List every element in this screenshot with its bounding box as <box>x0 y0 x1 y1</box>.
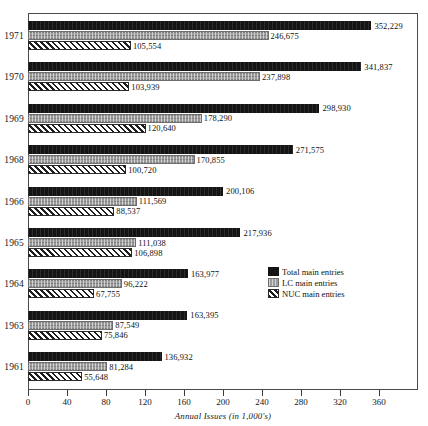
legend-swatch-nuc-icon <box>268 289 279 298</box>
bar-total-1969[interactable]: 298,930 <box>28 104 319 113</box>
bar-group-1969: 1969298,930178,290120,640 <box>28 104 418 135</box>
x-axis-title: Annual Issues (in 1,000's) <box>28 411 418 421</box>
bar-value-nuc-1970: 103,939 <box>131 82 159 91</box>
bar-value-nuc-1971: 105,554 <box>133 41 161 50</box>
bar-total-1961[interactable]: 136,932 <box>28 352 162 361</box>
x-tick-320 <box>340 390 341 396</box>
y-axis-label-1966: 1966 <box>4 197 24 207</box>
bar-value-lc-1963: 87,549 <box>115 321 139 330</box>
bar-nuc-1969[interactable]: 120,640 <box>28 124 146 133</box>
x-tick-0 <box>28 390 29 396</box>
y-axis-label-1961: 1961 <box>4 362 24 372</box>
x-tick-200 <box>223 390 224 396</box>
bar-lc-1961[interactable]: 81,284 <box>28 362 107 371</box>
y-axis-label-1971: 1971 <box>4 31 24 41</box>
bar-nuc-1961[interactable]: 55,648 <box>28 372 82 381</box>
legend-swatch-lc-icon <box>268 278 279 287</box>
bar-value-lc-1971: 246,675 <box>271 31 299 40</box>
x-tick-label-0: 0 <box>26 397 31 407</box>
bar-value-lc-1964: 96,222 <box>124 279 148 288</box>
bar-total-1970[interactable]: 341,837 <box>28 62 361 71</box>
bar-group-1970: 1970341,837237,898103,939 <box>28 62 418 93</box>
bar-group-1966: 1966200,106111,56988,537 <box>28 187 418 218</box>
bar-value-nuc-1966: 88,537 <box>116 207 140 216</box>
x-tick-label-360: 360 <box>372 397 386 407</box>
bar-value-lc-1961: 81,284 <box>109 362 133 371</box>
bar-value-nuc-1965: 106,898 <box>134 248 162 257</box>
x-tick-label-160: 160 <box>177 397 191 407</box>
x-tick-360 <box>379 390 380 396</box>
bar-value-total-1966: 200,106 <box>226 187 254 196</box>
x-tick-80 <box>106 390 107 396</box>
bar-total-1966[interactable]: 200,106 <box>28 187 223 196</box>
x-tick-160 <box>184 390 185 396</box>
bar-lc-1969[interactable]: 178,290 <box>28 114 202 123</box>
x-tick-40 <box>67 390 68 396</box>
bar-value-total-1961: 136,932 <box>165 352 193 361</box>
bars-layer: 1971352,229246,675105,5541970341,837237,… <box>28 13 418 390</box>
bar-nuc-1965[interactable]: 106,898 <box>28 248 132 257</box>
x-tick-label-200: 200 <box>216 397 230 407</box>
bar-total-1963[interactable]: 163,395 <box>28 311 187 320</box>
bar-chart: 1971352,229246,675105,5541970341,837237,… <box>0 0 428 426</box>
x-tick-label-40: 40 <box>63 397 72 407</box>
bar-nuc-1964[interactable]: 67,755 <box>28 289 94 298</box>
bar-nuc-1970[interactable]: 103,939 <box>28 82 129 91</box>
bar-value-nuc-1968: 100,720 <box>128 165 156 174</box>
bar-group-1965: 1965217,936111,038106,898 <box>28 228 418 259</box>
bar-lc-1968[interactable]: 170,855 <box>28 155 195 164</box>
bar-value-total-1968: 271,575 <box>296 145 324 154</box>
bar-value-lc-1965: 111,038 <box>138 238 166 247</box>
bar-value-total-1963: 163,395 <box>190 311 218 320</box>
x-tick-label-80: 80 <box>102 397 111 407</box>
x-axis: 04080120160200240280320360 Annual Issues… <box>28 390 418 426</box>
legend-label-nuc: NUC main entries <box>282 289 345 299</box>
y-axis-label-1968: 1968 <box>4 155 24 165</box>
bar-total-1965[interactable]: 217,936 <box>28 228 240 237</box>
bar-lc-1964[interactable]: 96,222 <box>28 279 122 288</box>
legend-item-nuc[interactable]: NUC main entries <box>268 288 388 299</box>
bar-total-1971[interactable]: 352,229 <box>28 21 371 30</box>
bar-value-total-1965: 217,936 <box>243 228 271 237</box>
bar-value-nuc-1963: 75,846 <box>104 331 128 340</box>
legend-swatch-total-icon <box>268 267 279 276</box>
y-axis-label-1970: 1970 <box>4 72 24 82</box>
bar-value-lc-1970: 237,898 <box>262 72 290 81</box>
bar-value-total-1964: 163,977 <box>191 269 219 278</box>
legend-item-lc[interactable]: LC main entries <box>268 277 388 288</box>
x-tick-label-120: 120 <box>138 397 152 407</box>
y-axis-label-1965: 1965 <box>4 238 24 248</box>
bar-nuc-1968[interactable]: 100,720 <box>28 165 126 174</box>
bar-value-lc-1966: 111,569 <box>139 197 167 206</box>
y-axis-label-1969: 1969 <box>4 114 24 124</box>
bar-value-lc-1968: 170,855 <box>197 155 225 164</box>
legend-item-total[interactable]: Total main entries <box>268 266 388 277</box>
chart-legend: Total main entriesLC main entriesNUC mai… <box>268 266 388 299</box>
bar-lc-1965[interactable]: 111,038 <box>28 238 136 247</box>
bar-lc-1966[interactable]: 111,569 <box>28 197 137 206</box>
bar-value-nuc-1969: 120,640 <box>148 124 176 133</box>
bar-nuc-1971[interactable]: 105,554 <box>28 41 131 50</box>
bar-total-1968[interactable]: 271,575 <box>28 145 293 154</box>
bar-nuc-1963[interactable]: 75,846 <box>28 331 102 340</box>
bar-lc-1971[interactable]: 246,675 <box>28 31 269 40</box>
bar-value-nuc-1964: 67,755 <box>96 289 120 298</box>
bar-lc-1963[interactable]: 87,549 <box>28 321 113 330</box>
legend-label-lc: LC main entries <box>282 278 337 288</box>
y-axis-label-1964: 1964 <box>4 279 24 289</box>
x-tick-label-280: 280 <box>294 397 308 407</box>
x-tick-240 <box>262 390 263 396</box>
bar-value-total-1970: 341,837 <box>364 62 392 71</box>
bar-group-1961: 1961136,93281,28455,648 <box>28 352 418 383</box>
bar-value-lc-1969: 178,290 <box>204 114 232 123</box>
x-tick-label-320: 320 <box>333 397 347 407</box>
y-axis-label-1963: 1963 <box>4 321 24 331</box>
legend-label-total: Total main entries <box>282 267 344 277</box>
bar-value-total-1969: 298,930 <box>322 104 350 113</box>
x-tick-120 <box>145 390 146 396</box>
bar-group-1971: 1971352,229246,675105,554 <box>28 21 418 52</box>
bar-nuc-1966[interactable]: 88,537 <box>28 207 114 216</box>
bar-total-1964[interactable]: 163,977 <box>28 269 188 278</box>
bar-lc-1970[interactable]: 237,898 <box>28 72 260 81</box>
bar-group-1968: 1968271,575170,855100,720 <box>28 145 418 176</box>
